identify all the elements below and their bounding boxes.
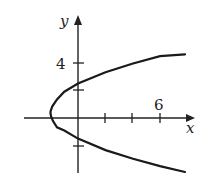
x-axis: 6 x	[24, 96, 195, 137]
x-tick-label-6: 6	[154, 96, 164, 114]
x-axis-label: x	[186, 119, 195, 137]
y-axis-label: y	[59, 12, 69, 30]
y-axis-arrow-icon	[74, 15, 82, 25]
y-tick-label-4: 4	[56, 55, 66, 73]
y-axis: 4 y	[56, 12, 84, 173]
parabola-chart: 6 x 4 y	[0, 0, 202, 191]
parabola-curve	[51, 54, 186, 172]
